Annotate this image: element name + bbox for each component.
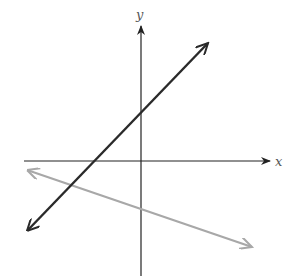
coordinate-plane: x y: [0, 0, 299, 276]
x-axis-label: x: [275, 154, 283, 169]
gray-line: [27, 170, 252, 247]
y-axis-label: y: [135, 7, 144, 22]
dark-line: [27, 43, 208, 231]
